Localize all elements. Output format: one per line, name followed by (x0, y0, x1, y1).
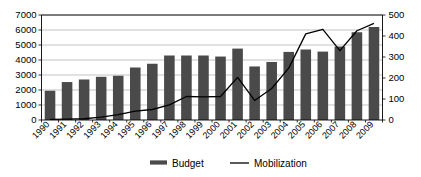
bar-1997 (164, 56, 175, 121)
bar-2006 (318, 52, 329, 120)
x-axis-label-1999: 1999 (184, 119, 205, 140)
x-axis-tick-labels: 1990199119921993199419951996199719981999… (30, 119, 375, 140)
x-axis-label-1998: 1998 (167, 119, 188, 140)
y-axis-right-label: 500 (389, 9, 405, 20)
x-axis-label-1997: 1997 (150, 119, 171, 140)
y-axis-right-label: 400 (389, 30, 405, 41)
y-axis-left-label: 1000 (15, 99, 36, 110)
y-axis-left-label: 6000 (15, 24, 36, 35)
x-axis-label-2003: 2003 (252, 119, 273, 140)
x-axis-label-2009: 2009 (354, 119, 375, 140)
bar-2000 (215, 57, 226, 120)
y-axis-right-tick-labels: 0100200300400500 (389, 9, 405, 125)
legend-label-mobilization: Mobilization (254, 158, 307, 169)
y-axis-left-label: 0 (31, 114, 36, 125)
x-axis-label-2002: 2002 (235, 119, 256, 140)
bar-2005 (300, 50, 311, 121)
y-axis-right-label: 200 (389, 72, 405, 83)
grid-lines (42, 15, 383, 105)
bar-2002 (249, 66, 260, 120)
bar-1998 (181, 56, 192, 121)
y-axis-left-label: 7000 (15, 9, 36, 20)
y-axis-right-label: 0 (389, 114, 394, 125)
y-axis-left-label: 4000 (15, 54, 36, 65)
y-axis-left-label: 3000 (15, 69, 36, 80)
chart-legend: BudgetMobilization (150, 158, 307, 169)
x-axis-label-1995: 1995 (115, 119, 136, 140)
bar-1992 (79, 80, 90, 121)
x-axis-label-1992: 1992 (64, 119, 85, 140)
combo-chart: 01000200030004000500060007000 0100200300… (0, 0, 421, 177)
legend-swatch-budget (150, 160, 167, 164)
legend-label-budget: Budget (172, 158, 204, 169)
bar-2007 (335, 47, 346, 121)
bar-2001 (232, 49, 243, 120)
bar-series-budget (45, 27, 380, 120)
chart-axes (39, 15, 386, 123)
bar-2009 (369, 27, 380, 120)
bar-1996 (147, 64, 158, 120)
bar-1991 (62, 82, 73, 120)
y-axis-left-label: 5000 (15, 39, 36, 50)
chart-container: 01000200030004000500060007000 0100200300… (0, 0, 421, 177)
bar-1990 (45, 91, 56, 120)
y-axis-left-tick-labels: 01000200030004000500060007000 (15, 9, 36, 125)
bar-1999 (198, 56, 209, 121)
x-axis-label-2001: 2001 (218, 119, 239, 140)
x-axis-label-2006: 2006 (303, 119, 324, 140)
x-axis-label-2000: 2000 (201, 119, 222, 140)
y-axis-left-label: 2000 (15, 84, 36, 95)
x-axis-label-2004: 2004 (269, 119, 290, 140)
y-axis-right-label: 100 (389, 93, 405, 104)
bar-2008 (352, 32, 363, 120)
y-axis-right-label: 300 (389, 51, 405, 62)
x-axis-label-2007: 2007 (320, 119, 341, 140)
x-axis-label-1991: 1991 (47, 119, 68, 140)
x-axis-label-2005: 2005 (286, 119, 307, 140)
bar-1993 (96, 77, 107, 120)
x-axis-label-1996: 1996 (133, 119, 154, 140)
x-axis-label-2008: 2008 (337, 119, 358, 140)
x-axis-label-1994: 1994 (98, 119, 119, 140)
x-axis-label-1993: 1993 (81, 119, 102, 140)
